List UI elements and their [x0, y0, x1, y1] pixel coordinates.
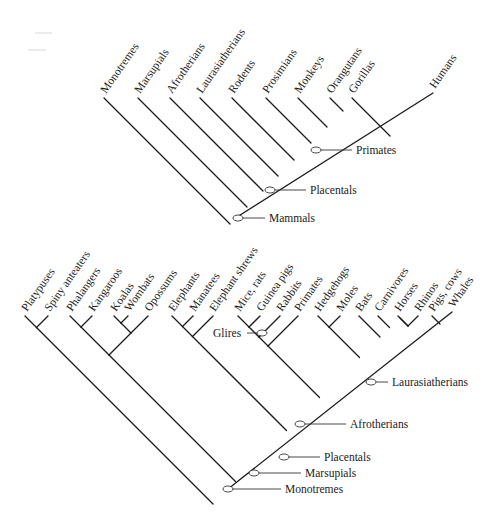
branch — [238, 316, 249, 327]
branch — [378, 316, 390, 328]
branch — [121, 323, 131, 333]
node-label: Primates — [311, 144, 397, 156]
clade-label: Mammals — [269, 212, 316, 224]
cladogram-canvas: MonotremesMarsupialsAfrotheriansLaurasia… — [0, 0, 490, 517]
branch — [183, 316, 194, 327]
bottom-cladogram: PlatypusesSpiny anteatersPhalangersKanga… — [19, 244, 476, 504]
branch — [352, 98, 390, 136]
branch — [25, 316, 37, 328]
branch — [268, 346, 320, 398]
bottom-tree-branches — [25, 312, 452, 504]
branch — [329, 316, 340, 327]
node-label: Marsupials — [249, 467, 357, 480]
branch — [432, 316, 440, 324]
branch — [121, 316, 128, 323]
branch — [183, 327, 193, 337]
node-marker-icon — [311, 147, 321, 153]
node-label: Laurasiatherians — [366, 376, 469, 388]
node-label: Placentals — [265, 184, 357, 196]
branch — [193, 316, 214, 337]
tip-label: Rodents — [226, 57, 258, 95]
branch — [172, 316, 183, 327]
node-label: Monotremes — [223, 483, 344, 495]
node-marker-icon — [233, 215, 243, 221]
node-marker-icon — [295, 421, 305, 427]
node-label: Placentals — [279, 451, 371, 463]
phylogeny-figure: MonotremesMarsupialsAfrotheriansLaurasia… — [0, 0, 490, 517]
branch — [70, 316, 81, 327]
branch — [298, 98, 327, 127]
branch — [359, 316, 380, 337]
branch — [408, 316, 418, 326]
clade-label: Glires — [213, 327, 242, 339]
tip-label: Humans — [427, 51, 459, 90]
node-label: Afrotherians — [295, 418, 409, 430]
branch — [268, 316, 298, 346]
branch — [138, 98, 247, 207]
clade-label: Afrotherians — [350, 418, 409, 430]
node-marker-icon — [279, 454, 289, 460]
branch — [259, 337, 268, 346]
bottom-tree-tip-labels: PlatypusesSpiny anteatersPhalangersKanga… — [19, 244, 476, 314]
clade-label: Placentals — [324, 451, 371, 463]
branch — [329, 327, 360, 358]
branch — [400, 318, 409, 327]
spine-branch — [237, 93, 433, 217]
node-marker-icon — [249, 470, 259, 476]
branch — [37, 328, 214, 505]
top-tree-tip-labels: MonotremesMarsupialsAfrotheriansLaurasia… — [98, 26, 459, 96]
node-marker-icon — [257, 330, 267, 336]
node-marker-icon — [223, 486, 233, 492]
branch — [131, 316, 148, 333]
branch — [104, 98, 230, 224]
tip-label: Monkeys — [292, 53, 328, 96]
top-tree-branches — [104, 93, 433, 224]
clade-label: Monotremes — [285, 483, 344, 495]
branch — [330, 98, 343, 111]
branch — [81, 327, 109, 355]
clade-label: Laurasiatherians — [392, 376, 469, 388]
branch — [318, 316, 329, 327]
branch — [249, 316, 260, 327]
clade-label: Marsupials — [305, 467, 357, 480]
branch — [109, 333, 131, 355]
scan-artifact — [28, 33, 52, 50]
node-marker-icon — [366, 379, 376, 385]
branch — [37, 316, 49, 328]
branch — [114, 316, 121, 323]
node-marker-icon — [265, 187, 275, 193]
clade-label: Placentals — [310, 184, 357, 196]
node-label: Mammals — [233, 212, 316, 224]
branch — [232, 98, 294, 160]
branch — [81, 316, 92, 327]
top-cladogram: MonotremesMarsupialsAfrotheriansLaurasia… — [98, 26, 459, 224]
clade-label: Primates — [356, 144, 397, 156]
branch — [200, 98, 278, 176]
